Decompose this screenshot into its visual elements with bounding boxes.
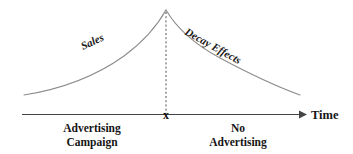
time-axis-arrowhead bbox=[299, 111, 307, 119]
no-advertising-label-line1: No bbox=[231, 122, 245, 134]
sales-curve-label: Sales bbox=[79, 31, 106, 52]
advertising-decay-diagram: x Time Sales Decay Effects Advertising C… bbox=[0, 0, 353, 154]
diagram-canvas: x Time Sales Decay Effects Advertising C… bbox=[0, 0, 353, 154]
time-axis-label: Time bbox=[311, 108, 339, 122]
advertising-campaign-label-line1: Advertising bbox=[63, 122, 121, 135]
advertising-campaign-label-line2: Campaign bbox=[66, 136, 118, 149]
decay-effects-curve-label: Decay Effects bbox=[182, 25, 243, 66]
sales-rising-curve bbox=[24, 10, 166, 95]
no-advertising-label-line2: Advertising bbox=[209, 136, 267, 149]
origin-x-marker: x bbox=[163, 108, 169, 122]
